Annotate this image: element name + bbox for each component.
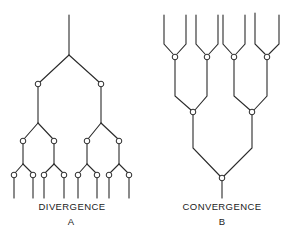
panel-b-letter: B	[219, 216, 226, 227]
node-circle	[41, 172, 47, 178]
node-circle	[11, 172, 17, 178]
node-circle	[35, 81, 41, 87]
node-circle	[190, 109, 196, 115]
node-circle	[116, 138, 122, 144]
node-circle	[264, 54, 270, 60]
convergence-tree	[164, 13, 279, 198]
node-circle	[75, 172, 81, 178]
divergence-title: DIVERGENCE	[39, 201, 106, 212]
node-circle	[20, 138, 26, 144]
divergence-tree	[11, 15, 132, 198]
node-circle	[84, 138, 90, 144]
panel-a-letter: A	[68, 216, 75, 227]
convergence-title: CONVERGENCE	[183, 201, 262, 212]
node-circle	[249, 109, 255, 115]
node-circle	[204, 54, 210, 60]
node-circle	[219, 175, 225, 181]
node-circle	[126, 172, 132, 178]
node-circle	[231, 54, 237, 60]
node-circle	[106, 172, 112, 178]
node-circle	[98, 81, 104, 87]
node-circle	[30, 172, 36, 178]
node-circle	[51, 138, 57, 144]
diagram-canvas: DIVERGENCE A CONVERGENCE B	[0, 0, 288, 243]
node-circle	[94, 172, 100, 178]
node-circle	[172, 54, 178, 60]
node-circle	[61, 172, 67, 178]
